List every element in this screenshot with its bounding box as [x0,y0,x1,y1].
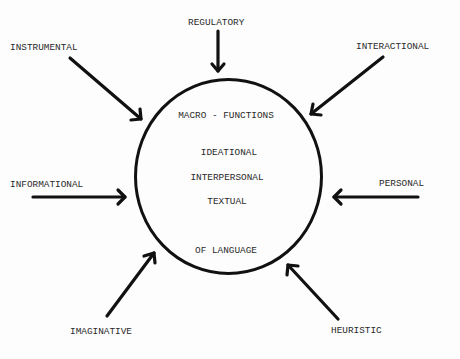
label-heuristic: HEURISTIC [331,325,382,336]
circle-footer: OF LANGUAGE [195,245,257,256]
label-imaginative: IMAGINATIVE [70,326,132,337]
instrumental-arrow-icon [70,58,141,120]
personal-arrow-icon [334,190,418,204]
interactional-arrow-icon [311,57,383,115]
label-personal: PERSONAL [379,178,424,189]
imaginative-arrow-icon [107,253,155,316]
center-item-textual: TEXTUAL [207,196,246,207]
heuristic-arrow-icon [287,265,338,319]
regulatory-arrow-icon [212,31,224,71]
label-instrumental: INSTRUMENTAL [10,42,78,53]
informational-arrow-icon [33,190,125,204]
label-informational: INFORMATIONAL [10,179,83,190]
label-interactional: INTERACTIONAL [356,41,429,52]
center-item-interpersonal: INTERPERSONAL [190,172,263,183]
circle-title: MACRO - FUNCTIONS [178,110,274,121]
label-regulatory: REGULATORY [188,17,244,28]
center-item-ideational: IDEATIONAL [201,147,257,158]
macro-functions-diagram: REGULATORY INSTRUMENTAL INTERACTIONAL IN… [0,0,460,359]
